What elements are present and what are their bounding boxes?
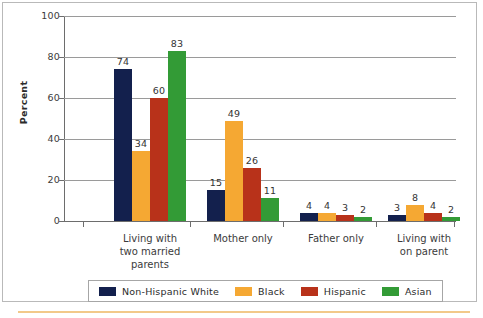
y-tick-mark bbox=[59, 16, 64, 17]
x-tick-mark bbox=[283, 221, 284, 227]
bar bbox=[168, 51, 186, 221]
bar bbox=[150, 98, 168, 221]
legend-label: Non-Hispanic White bbox=[122, 286, 219, 297]
chart-figure: 020406080100 743460831549261144323842 Li… bbox=[0, 0, 483, 318]
y-axis-title: Percent bbox=[18, 58, 29, 148]
y-tick-mark bbox=[59, 221, 64, 222]
bar bbox=[132, 151, 150, 221]
legend-item[interactable]: Asian bbox=[382, 286, 432, 297]
y-tick-label: 60 bbox=[26, 92, 60, 103]
bar-group: 3842 bbox=[388, 16, 460, 221]
y-tick-mark bbox=[59, 180, 64, 181]
bar bbox=[207, 190, 225, 221]
bar bbox=[318, 213, 336, 221]
plot-area: 743460831549261144323842 Living withtwo … bbox=[64, 16, 456, 221]
legend-label: Hispanic bbox=[324, 286, 366, 297]
legend-item[interactable]: Black bbox=[235, 286, 285, 297]
x-category-label: Living withon parent bbox=[364, 232, 483, 258]
bar-value-label: 2 bbox=[348, 204, 378, 215]
y-tick-mark bbox=[59, 98, 64, 99]
bottom-decorative-rule bbox=[18, 311, 470, 313]
bar bbox=[388, 215, 406, 221]
bar-value-label: 2 bbox=[436, 204, 466, 215]
legend-swatch bbox=[301, 287, 318, 296]
legend-item[interactable]: Hispanic bbox=[301, 286, 366, 297]
bar bbox=[261, 198, 279, 221]
y-tick-mark bbox=[59, 57, 64, 58]
legend-item[interactable]: Non-Hispanic White bbox=[99, 286, 219, 297]
x-tick-mark bbox=[83, 221, 84, 227]
bar bbox=[336, 215, 354, 221]
bar-value-label: 74 bbox=[108, 56, 138, 67]
bar bbox=[354, 217, 372, 221]
y-tick-mark bbox=[59, 139, 64, 140]
bar-group: 15492611 bbox=[207, 16, 279, 221]
y-tick-label: 100 bbox=[26, 10, 60, 21]
y-tick-label: 0 bbox=[26, 215, 60, 226]
y-tick-label: 80 bbox=[26, 51, 60, 62]
y-axis-line bbox=[64, 16, 65, 222]
x-category-label-line: parents bbox=[90, 258, 210, 271]
bar-value-label: 11 bbox=[255, 185, 285, 196]
legend-label: Black bbox=[258, 286, 285, 297]
legend-swatch bbox=[235, 287, 252, 296]
legend-swatch bbox=[382, 287, 399, 296]
bar bbox=[442, 217, 460, 221]
bar-value-label: 26 bbox=[237, 155, 267, 166]
legend-swatch bbox=[99, 287, 116, 296]
y-tick-label: 20 bbox=[26, 174, 60, 185]
x-tick-mark bbox=[454, 221, 455, 227]
x-category-label-line: Living with bbox=[364, 232, 483, 245]
y-tick-label: 40 bbox=[26, 133, 60, 144]
legend-label: Asian bbox=[405, 286, 432, 297]
bar-value-label: 83 bbox=[162, 38, 192, 49]
bar bbox=[300, 213, 318, 221]
bar-value-label: 49 bbox=[219, 108, 249, 119]
bar-group: 74346083 bbox=[114, 16, 186, 221]
x-category-label-line: two married bbox=[90, 245, 210, 258]
bar bbox=[225, 121, 243, 221]
x-category-label-line: on parent bbox=[364, 245, 483, 258]
x-tick-mark bbox=[190, 221, 191, 227]
x-axis-line bbox=[64, 221, 456, 222]
bar-group: 4432 bbox=[300, 16, 372, 221]
chart-legend: Non-Hispanic WhiteBlackHispanicAsian bbox=[88, 280, 443, 302]
x-tick-mark bbox=[376, 221, 377, 227]
